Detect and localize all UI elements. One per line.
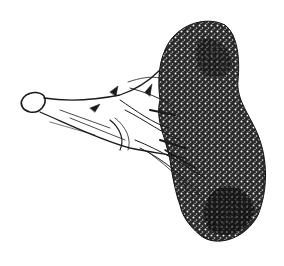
illustration-canvas [0, 0, 284, 266]
broccoli-head [159, 21, 266, 241]
broccoli-drawing [0, 0, 284, 266]
